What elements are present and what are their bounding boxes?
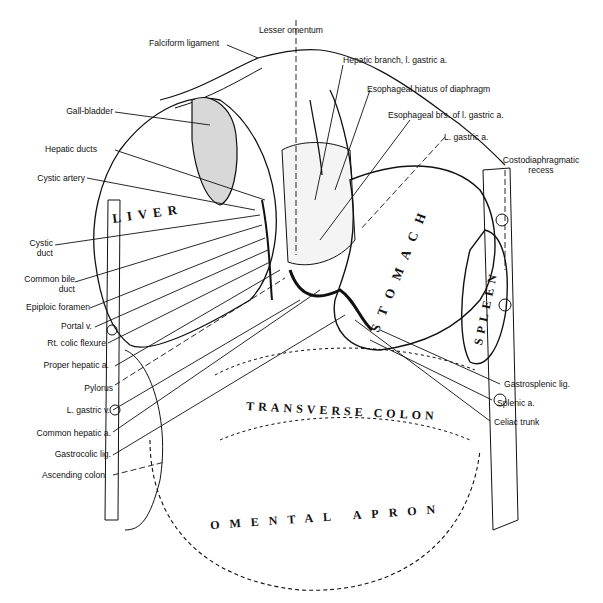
label-splenic-artery: Splenic a. [497,398,535,408]
label-cystic-artery: Cystic artery [37,173,85,183]
label-cystic-duct-line1: Cystic [30,238,53,248]
label-esophageal-hiatus: Esophageal hiatus of diaphragm [367,84,490,94]
label-common-bile-duct: Common bile duct [24,274,75,294]
label-celiac-trunk: Celiac trunk [494,417,539,427]
label-gastrocolic-ligament: Gastrocolic lig. [55,449,111,459]
label-left-gastric-artery: L. gastric a. [444,132,488,142]
label-hepatic-branch: Hepatic branch, l. gastric a. [343,55,447,65]
label-right-colic-flexure: Rt. colic flexure [47,338,106,348]
label-left-gastric-vein: L. gastric v. [67,405,110,415]
label-costodiaphragmatic-recess: Costodiaphragmatic recess [496,155,586,175]
label-common-bile-line1: Common bile [24,274,75,284]
label-epiploic-foramen: Epiploic foramen [26,302,90,312]
label-common-bile-line2: duct [24,284,75,294]
label-costodiaphragmatic-line1: Costodiaphragmatic [496,155,586,165]
label-falciform-ligament: Falciform ligament [149,38,219,48]
label-gall-bladder: Gall-bladder [66,106,113,116]
label-costodiaphragmatic-line2: recess [496,165,586,175]
label-esophageal-branches: Esophageal brs. of l. gastric a. [388,110,504,120]
label-ascending-colon: Ascending colon [42,470,105,480]
label-cystic-duct-line2: duct [30,248,53,258]
label-portal-vein: Portal v. [61,321,92,331]
label-cystic-duct: Cystic duct [30,238,53,258]
label-pylorus: Pylorus [84,383,113,393]
label-common-hepatic-artery: Common hepatic a. [36,428,111,438]
label-hepatic-ducts: Hepatic ducts [45,144,97,154]
label-gastrosplenic-ligament: Gastrosplenic lig. [504,379,570,389]
label-proper-hepatic-artery: Proper hepatic a. [44,360,109,370]
label-lesser-omentum: Lesser omentum [259,25,323,35]
